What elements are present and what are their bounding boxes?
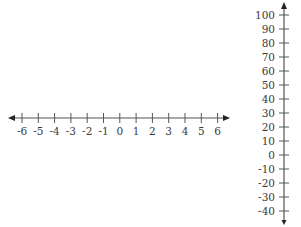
tick-label: -30 xyxy=(258,191,275,203)
tick-label: -2 xyxy=(82,125,92,137)
tick-label: 60 xyxy=(262,65,275,77)
tick-label: -10 xyxy=(258,163,275,175)
tick-label: -20 xyxy=(258,177,275,189)
tick-label: 100 xyxy=(255,9,275,21)
tick-label: 3 xyxy=(165,125,172,137)
horizontal-number-line: -6-5-4-3-2-10123456 xyxy=(8,113,230,137)
down-arrow-icon xyxy=(282,220,287,225)
tick-label: -3 xyxy=(66,125,76,137)
tick-label: -1 xyxy=(98,125,108,137)
tick-label: 20 xyxy=(262,121,275,133)
tick-label: 2 xyxy=(149,125,156,137)
tick-label: 10 xyxy=(262,135,275,147)
tick-label: 50 xyxy=(262,79,275,91)
left-arrow-icon xyxy=(8,115,15,121)
tick-label: 0 xyxy=(268,149,275,161)
tick-label: 40 xyxy=(262,93,275,105)
tick-label: 90 xyxy=(262,23,275,35)
tick-label: -6 xyxy=(17,125,28,137)
tick-label: 80 xyxy=(262,37,275,49)
tick-label: -40 xyxy=(258,205,275,217)
number-lines-diagram: -6-5-4-3-2-10123456 10090807060504030201… xyxy=(0,0,301,227)
tick-label: 1 xyxy=(133,125,140,137)
tick-label: 70 xyxy=(262,51,275,63)
tick-label: 5 xyxy=(198,125,205,137)
tick-label: 6 xyxy=(214,125,221,137)
tick-label: 0 xyxy=(116,125,123,137)
up-arrow-icon xyxy=(281,2,287,9)
tick-label: 30 xyxy=(262,107,275,119)
vertical-number-line: 1009080706050403020100-10-20-30-40 xyxy=(255,2,289,225)
tick-label: 4 xyxy=(182,125,189,137)
tick-label: -5 xyxy=(33,125,43,137)
tick-label: -4 xyxy=(49,125,60,137)
right-arrow-icon xyxy=(223,115,230,121)
